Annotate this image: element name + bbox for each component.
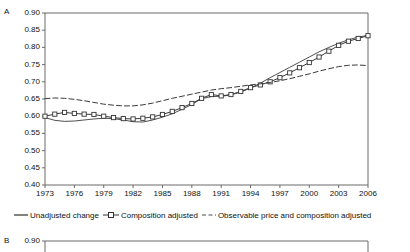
data-point-marker [72, 111, 76, 115]
data-point-marker [288, 71, 292, 75]
x-axis-tick-label: 2000 [294, 189, 324, 198]
data-point-marker [102, 114, 106, 118]
legend-label-observable-price-and-composition-adjusted: Observable price and composition adjuste… [218, 211, 371, 220]
y-axis-tick-label: 0.60 [14, 111, 40, 120]
series-line [45, 35, 368, 122]
x-axis-tick-label: 2003 [324, 189, 354, 198]
panel-b-plot [45, 240, 368, 252]
x-axis-tick-label: 1982 [118, 189, 148, 198]
x-axis-tick-label: 1988 [177, 189, 207, 198]
data-point-marker [278, 76, 282, 80]
panel-a-plot [45, 13, 368, 185]
data-point-marker [43, 114, 47, 118]
data-point-marker [337, 43, 341, 47]
panel-a-letter: A [4, 7, 9, 16]
x-axis-tick-label: 1979 [89, 189, 119, 198]
legend-label-composition-adjusted: Composition adjusted [121, 211, 198, 220]
series-unadjusted-change [45, 35, 368, 122]
legend-swatch-square-marker-line [103, 211, 119, 219]
data-point-marker [327, 49, 331, 53]
panel-a-svg [45, 13, 368, 185]
y-axis-tick-label: 0.90 [14, 8, 40, 17]
y-axis-tick-label: 0.45 [14, 163, 40, 172]
data-point-marker [131, 117, 135, 121]
data-point-marker [53, 112, 57, 116]
data-point-marker [346, 39, 350, 43]
x-axis-tick-label: 1985 [147, 189, 177, 198]
data-point-marker [307, 60, 311, 64]
data-point-marker [297, 66, 301, 70]
y-axis-tick-label: 0.50 [14, 146, 40, 155]
x-axis-tick-label: 1991 [206, 189, 236, 198]
data-point-marker [141, 116, 145, 120]
legend-item-observable-price-and-composition-adjusted[interactable]: Observable price and composition adjuste… [202, 211, 371, 220]
x-axis-tick-label: 1994 [236, 189, 266, 198]
series-line [45, 36, 368, 119]
chart-legend: Unadjusted change Composition adjusted O… [14, 208, 406, 222]
y-axis-tick-label: 0.70 [14, 77, 40, 86]
data-point-marker [82, 112, 86, 116]
series-composition-adjusted [43, 34, 370, 121]
x-axis-tick-label: 1997 [265, 189, 295, 198]
data-point-marker [366, 34, 370, 38]
y-axis-tick-label: 0.55 [14, 128, 40, 137]
data-point-marker [268, 80, 272, 84]
panel-b-letter: B [4, 236, 9, 245]
data-point-marker [248, 86, 252, 90]
legend-label-unadjusted-change: Unadjusted change [30, 211, 99, 220]
data-point-marker [209, 92, 213, 96]
legend-item-unadjusted-change[interactable]: Unadjusted change [14, 211, 99, 220]
y-axis-tick-label: 0.75 [14, 60, 40, 69]
data-point-marker [121, 117, 125, 121]
data-point-marker [151, 115, 155, 119]
y-axis-tick-label: 0.40 [14, 180, 40, 189]
panel-b-svg [45, 240, 368, 252]
data-point-marker [62, 110, 66, 114]
data-point-marker [219, 94, 223, 98]
data-point-marker [229, 92, 233, 96]
data-point-marker [180, 106, 184, 110]
data-point-marker [356, 36, 360, 40]
data-point-marker [239, 89, 243, 93]
data-point-marker [200, 96, 204, 100]
data-point-marker [111, 115, 115, 119]
x-axis-tick-label: 1973 [30, 189, 60, 198]
series-observable-price-and-composition-adjusted [45, 65, 368, 106]
data-point-marker [317, 55, 321, 59]
data-point-marker [190, 101, 194, 105]
y-axis-tick-label: 0.65 [14, 94, 40, 103]
data-point-marker [160, 112, 164, 116]
legend-swatch-dashed-line [202, 211, 216, 219]
x-axis-tick-label: 2006 [353, 189, 383, 198]
y-axis-tick-label: 0.80 [14, 42, 40, 51]
series-line [45, 65, 368, 106]
legend-swatch-solid-line [14, 211, 28, 219]
figure-root: A 0.900.850.800.750.700.650.600.550.500.… [0, 0, 410, 252]
plot-frame [45, 13, 368, 185]
legend-item-composition-adjusted[interactable]: Composition adjusted [103, 211, 198, 220]
panel-b-y-top-label: 0.90 [14, 236, 40, 245]
y-axis-tick-label: 0.85 [14, 25, 40, 34]
x-axis-tick-label: 1976 [59, 189, 89, 198]
data-point-marker [92, 112, 96, 116]
panel-b-plot-frame [45, 241, 368, 252]
data-point-marker [170, 109, 174, 113]
